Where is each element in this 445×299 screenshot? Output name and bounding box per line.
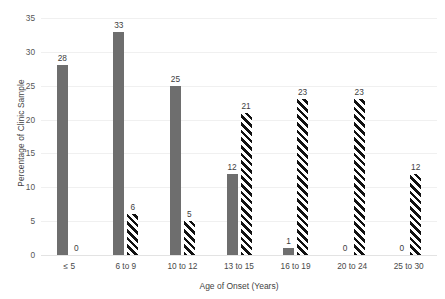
bar-series-hatched-6	[410, 174, 421, 255]
bar-value-label: 25	[162, 74, 188, 84]
bar-value-label: 23	[346, 87, 372, 97]
bar-series-solid-1	[113, 32, 124, 255]
bar-value-label: 6	[120, 202, 146, 212]
x-axis-title: Age of Onset (Years)	[41, 281, 437, 291]
plot-area: 2803362551221123023012	[41, 18, 437, 255]
bar-series-solid-2	[170, 86, 181, 255]
gridline	[41, 52, 437, 53]
y-tick-label: 25	[11, 81, 35, 91]
gridline	[41, 86, 437, 87]
y-tick-label: 10	[11, 182, 35, 192]
bar-value-label: 23	[290, 87, 316, 97]
bar-value-label: 0	[63, 243, 89, 253]
bar-series-hatched-4	[297, 99, 308, 255]
y-tick-label: 15	[11, 148, 35, 158]
bar-value-label: 28	[49, 53, 75, 63]
bar-series-hatched-2	[184, 221, 195, 255]
gridline	[41, 255, 437, 256]
y-tick-label: 20	[11, 115, 35, 125]
gridline	[41, 187, 437, 188]
bar-series-hatched-3	[241, 113, 252, 255]
bar-series-solid-0	[57, 65, 68, 255]
x-category-label: 25 to 30	[374, 261, 444, 271]
bar-series-hatched-5	[354, 99, 365, 255]
bar-series-solid-4	[283, 248, 294, 255]
y-tick-label: 5	[11, 216, 35, 226]
gridline	[41, 120, 437, 121]
y-axis-title: Percentage of Clinic Sample	[16, 33, 26, 233]
gridline	[41, 153, 437, 154]
bar-series-hatched-1	[127, 214, 138, 255]
bar-series-solid-3	[227, 174, 238, 255]
bar-value-label: 21	[233, 101, 259, 111]
bar-chart: Percentage of Clinic Sample 051015202530…	[0, 0, 445, 299]
y-tick-label: 0	[11, 250, 35, 260]
y-tick-label: 30	[11, 47, 35, 57]
bar-value-label: 5	[176, 209, 202, 219]
bar-value-label: 12	[403, 162, 429, 172]
gridline	[41, 18, 437, 19]
gridline	[41, 221, 437, 222]
y-tick-label: 35	[11, 13, 35, 23]
bar-value-label: 33	[106, 20, 132, 30]
